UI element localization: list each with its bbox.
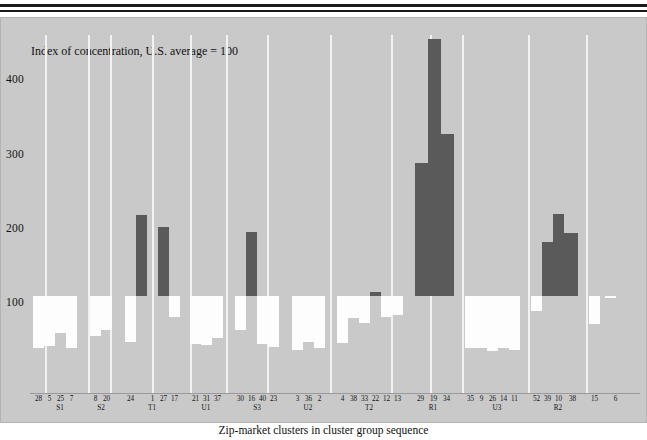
group-label-R2: R2 (548, 404, 568, 412)
bar-26-U3 (487, 296, 498, 351)
bar-29-R1 (415, 163, 428, 296)
x-axis-line (30, 393, 640, 394)
group-label-U3: U3 (487, 404, 507, 412)
chart-page: Index of concentration, U.S. average = 1… (0, 0, 647, 440)
bar-34-R1 (441, 134, 454, 296)
group-label-U1: U1 (196, 404, 216, 412)
x-tick-19-2: 2 (311, 395, 328, 403)
bar-7-S1 (66, 296, 77, 348)
top-rule-thick (0, 4, 647, 7)
x-tick-28-34: 34 (438, 395, 455, 403)
x-tick-9-17: 17 (166, 395, 183, 403)
group-label-U2: U2 (298, 404, 318, 412)
x-axis-title: Zip-market clusters in cluster group seq… (0, 424, 647, 436)
bar-24-T1 (125, 296, 136, 342)
x-tick-25-13: 13 (389, 395, 406, 403)
x-tick-5-20: 20 (98, 395, 115, 403)
x-tick-6-24: 24 (122, 395, 139, 403)
y-tick-400: 400 (6, 73, 24, 85)
group-label-S3: S3 (247, 404, 267, 412)
bar-37-U1 (212, 296, 223, 338)
bar-16-S3 (246, 232, 257, 296)
bar-3-U2 (292, 296, 303, 350)
bar-group (30, 35, 640, 393)
bar-27-T1 (158, 227, 169, 296)
bar-23-S3 (268, 296, 279, 347)
bar-31-U1 (201, 296, 212, 345)
bar-17-T1 (169, 296, 180, 317)
group-label-S1: S1 (50, 404, 70, 412)
bar-40-S3 (257, 296, 268, 344)
x-tick-16-23: 23 (265, 395, 282, 403)
group-label-R1: R1 (423, 404, 443, 412)
top-rule-thin (0, 10, 647, 12)
y-tick-300: 300 (6, 148, 24, 160)
bar-2-U2 (314, 296, 325, 348)
bar-1-T1 (136, 215, 147, 296)
y-tick-200: 200 (6, 222, 24, 234)
group-label-T2: T2 (359, 404, 379, 412)
bar-25-S1 (55, 296, 66, 333)
bar-21-U1 (190, 296, 201, 344)
bar-15-R2 (589, 296, 600, 324)
bar-52-R2 (531, 296, 542, 311)
bar-9-U3 (476, 296, 487, 348)
bar-22-T2 (370, 292, 381, 296)
bar-28-S1 (33, 296, 44, 348)
bar-5-S1 (44, 296, 55, 346)
x-tick-39-6: 6 (607, 395, 624, 403)
bar-38-T2 (348, 296, 359, 318)
bar-30-S3 (235, 296, 246, 330)
bar-39-R2 (542, 242, 553, 296)
bar-4-T2 (337, 296, 348, 343)
bar-19-R1 (428, 39, 441, 296)
group-label-S2: S2 (91, 404, 111, 412)
x-tick-12-37: 37 (209, 395, 226, 403)
bar-10-R2 (553, 214, 564, 296)
group-label-T1: T1 (142, 404, 162, 412)
bar-12-T2 (381, 296, 392, 317)
x-tick-33-11: 11 (506, 395, 523, 403)
bar-35-U3 (465, 296, 476, 348)
bar-38-R2 (564, 233, 578, 296)
plot-panel: Index of concentration, U.S. average = 1… (0, 17, 647, 423)
x-tick-3-7: 7 (63, 395, 80, 403)
bar-36-U2 (303, 296, 314, 342)
bar-11-U3 (509, 296, 520, 350)
y-tick-100: 100 (6, 296, 24, 308)
bar-8-S2 (90, 296, 101, 336)
bar-20-S2 (101, 296, 112, 330)
x-tick-37-38: 38 (564, 395, 581, 403)
x-tick-38-15: 15 (586, 395, 603, 403)
x-tick-labels: 2852578202412717213137301640233362438332… (30, 395, 640, 421)
bar-6-R2 (605, 296, 616, 297)
bar-14-U3 (498, 296, 509, 348)
bar-13-T2 (392, 296, 403, 315)
plot-area (30, 35, 640, 393)
bar-33-T2 (359, 296, 370, 323)
